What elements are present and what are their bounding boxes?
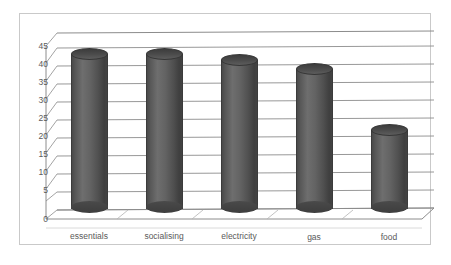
x-label-gas: gas <box>307 233 321 242</box>
x-axis-category-labels: essentials socialising electricity gas f… <box>0 0 451 265</box>
chart-container: 45 40 35 30 25 20 15 10 5 0 <box>0 0 451 265</box>
x-label-food: food <box>381 233 398 242</box>
x-label-socialising: socialising <box>144 232 183 241</box>
x-label-electricity: electricity <box>221 232 256 241</box>
x-label-essentials: essentials <box>70 232 108 241</box>
